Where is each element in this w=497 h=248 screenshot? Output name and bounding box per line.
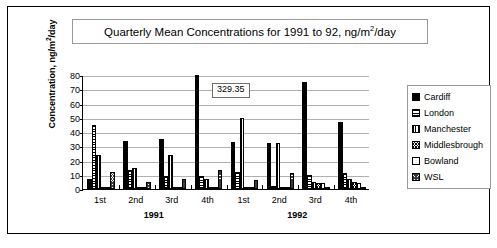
bar-wsl[interactable]	[110, 172, 115, 189]
x-axis-tick-label: 4th	[190, 195, 226, 205]
x-axis-tick-labels: 1st2nd3rd4th1st2nd3rd4th	[82, 195, 369, 209]
legend-swatch-icon	[412, 125, 420, 133]
bar-cardiff[interactable]	[195, 75, 200, 189]
bar-manchester[interactable]	[96, 155, 101, 189]
y-axis-tick-label: 40	[70, 129, 80, 138]
x-axis-tick-label: 1st	[226, 195, 262, 205]
bar-group	[334, 76, 370, 189]
chart-title: Quarterly Mean Concentrations for 1991 t…	[104, 26, 396, 38]
bar-manchester[interactable]	[240, 118, 245, 189]
bar-cardiff[interactable]	[302, 82, 307, 189]
x-axis-tick-label: 2nd	[261, 195, 297, 205]
data-label-callout[interactable]: 329.35	[212, 83, 250, 98]
y-axis-tick-label: 10	[70, 171, 80, 180]
y-axis-tick-label: 80	[70, 72, 80, 81]
legend-item[interactable]: Cardiff	[412, 89, 487, 105]
y-axis-tick-label: 70	[70, 86, 80, 95]
legend-swatch-icon	[412, 157, 420, 165]
legend-item[interactable]: Middlesbrough	[412, 137, 487, 153]
y-axis-title-main: Concentration, ng/m	[47, 41, 57, 129]
category-separator	[334, 185, 335, 189]
bar-wsl[interactable]	[254, 180, 259, 189]
x-axis-group-label: 1991	[82, 210, 226, 220]
legend-item-label: WSL	[424, 172, 444, 182]
bar-manchester[interactable]	[276, 143, 281, 189]
chart-legend[interactable]: CardiffLondonManchesterMiddlesbroughBowl…	[407, 85, 491, 189]
legend-item[interactable]: London	[412, 105, 487, 121]
legend-item-label: Manchester	[424, 124, 471, 134]
legend-swatch-icon	[412, 93, 420, 101]
category-separator	[262, 185, 263, 189]
bar-group	[298, 76, 334, 189]
chart-object-frame: Quarterly Mean Concentrations for 1991 t…	[7, 6, 490, 234]
bar-wsl[interactable]	[325, 187, 330, 189]
category-separator	[119, 185, 120, 189]
y-axis-tick-mark	[80, 190, 83, 191]
legend-swatch-icon	[412, 173, 420, 181]
y-axis-tick-label: 30	[70, 143, 80, 152]
legend-item-label: Bowland	[424, 156, 459, 166]
chart-title-suffix: /day	[374, 26, 396, 38]
bar-cardiff[interactable]	[267, 143, 272, 189]
bar-wsl[interactable]	[361, 187, 366, 189]
bar-manchester[interactable]	[132, 168, 137, 189]
x-axis-group-labels: 19911992	[82, 210, 369, 224]
chart-title-main: Quarterly Mean Concentrations for 1991 t…	[104, 26, 370, 38]
category-separator	[155, 185, 156, 189]
bar-wsl[interactable]	[146, 182, 151, 189]
bar-group	[83, 76, 119, 189]
legend-item[interactable]: Bowland	[412, 153, 487, 169]
category-separator	[298, 185, 299, 189]
y-axis-tick-label: 60	[70, 100, 80, 109]
data-label-value: 329.35	[217, 84, 245, 94]
y-axis-title-superscript: 2	[45, 37, 52, 41]
legend-item[interactable]: Manchester	[412, 121, 487, 137]
legend-swatch-icon	[412, 141, 420, 149]
legend-item[interactable]: WSL	[412, 169, 487, 185]
legend-swatch-icon	[412, 109, 420, 117]
x-axis-tick-label: 3rd	[297, 195, 333, 205]
bar-wsl[interactable]	[290, 173, 295, 189]
category-separator	[191, 185, 192, 189]
bar-group	[262, 76, 298, 189]
legend-item-label: London	[424, 108, 454, 118]
legend-item-label: Cardiff	[424, 92, 450, 102]
x-axis-tick-label: 4th	[333, 195, 369, 205]
x-axis-tick-label: 1st	[82, 195, 118, 205]
y-axis-title: Concentration, ng/m2/day	[47, 14, 57, 134]
bar-group	[155, 76, 191, 189]
y-axis-tick-label: 50	[70, 114, 80, 123]
y-axis-title-suffix: /day	[47, 19, 57, 37]
legend-item-label: Middlesbrough	[424, 140, 483, 150]
x-axis-tick-label: 2nd	[118, 195, 154, 205]
bar-group	[119, 76, 155, 189]
bar-wsl[interactable]	[182, 179, 187, 189]
x-axis-group-label: 1992	[226, 210, 370, 220]
y-axis-tick-label: 20	[70, 157, 80, 166]
bar-wsl[interactable]	[218, 170, 223, 189]
x-axis-tick-label: 3rd	[154, 195, 190, 205]
bar-manchester[interactable]	[168, 155, 173, 189]
chart-screenshot: Quarterly Mean Concentrations for 1991 t…	[0, 0, 497, 248]
chart-title-box[interactable]: Quarterly Mean Concentrations for 1991 t…	[72, 19, 428, 44]
category-separator	[227, 185, 228, 189]
